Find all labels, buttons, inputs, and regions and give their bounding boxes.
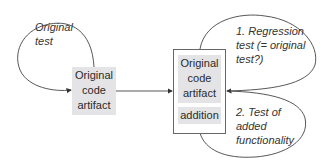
box-line: artifact <box>72 98 116 113</box>
box-line: artifact <box>178 86 221 101</box>
added-functionality-label: 2. Test of added functionality <box>236 105 294 147</box>
addition-text: addition <box>178 108 221 123</box>
label-line: 2. Test of <box>236 105 294 119</box>
left-loop-label: Original test <box>35 20 73 48</box>
label-line: test (= original <box>236 38 305 52</box>
box-line: code <box>72 83 116 98</box>
label-line: test <box>35 34 73 48</box>
original-artifact-text: Original code artifact <box>72 68 116 113</box>
label-line: functionality <box>236 133 294 147</box>
label-line: Original <box>35 20 73 34</box>
label-line: added <box>236 119 294 133</box>
label-line: test?) <box>236 52 305 66</box>
box-line: Original <box>178 56 221 71</box>
label-line: 1. Regression <box>236 24 305 38</box>
regression-test-label: 1. Regression test (= original test?) <box>236 24 305 66</box>
box-line: Original <box>72 68 116 83</box>
modified-original-text: Original code artifact <box>178 56 221 101</box>
diagram-canvas: Original test Original code artifact Ori… <box>0 0 331 168</box>
box-line: code <box>178 71 221 86</box>
